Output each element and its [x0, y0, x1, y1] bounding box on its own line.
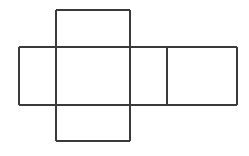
right-face	[167, 47, 237, 105]
left-face	[19, 47, 56, 105]
middle-face	[56, 47, 130, 105]
bottom-face	[56, 105, 130, 141]
inner-right-face	[130, 47, 167, 105]
figure-container	[0, 0, 249, 156]
cube-net-diagram	[0, 0, 249, 156]
top-face	[56, 10, 130, 47]
